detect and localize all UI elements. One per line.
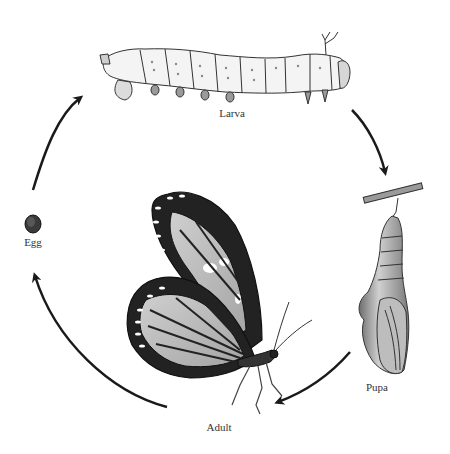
egg-illustration xyxy=(25,215,41,233)
stage-label-larva: Larva xyxy=(219,107,245,119)
stage-label-adult: Adult xyxy=(206,421,231,433)
stage-label-pupa: Pupa xyxy=(366,381,388,393)
larva-illustration xyxy=(100,32,350,104)
arrow-egg-to-larva xyxy=(33,98,80,190)
arrow-larva-to-pupa xyxy=(352,110,385,172)
adult-butterfly-illustration xyxy=(127,192,312,414)
life-cycle-diagram: Larva Pupa Adult Egg xyxy=(0,0,450,454)
arrow-pupa-to-adult xyxy=(278,352,350,402)
pupa-illustration xyxy=(359,183,423,374)
stage-label-egg: Egg xyxy=(24,236,42,248)
